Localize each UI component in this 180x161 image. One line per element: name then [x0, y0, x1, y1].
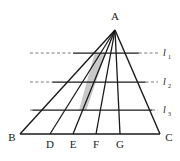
vertex-label-a: A [111, 10, 119, 22]
vertex-label-b: B [8, 131, 15, 143]
transversal-label-l3: l [163, 104, 166, 115]
transversal-label-l1-subscript: 1 [168, 54, 171, 60]
vertex-label-e: E [70, 138, 77, 150]
geometry-figure: A B C D E F G l 1 l 2 l 3 [0, 0, 180, 161]
vertex-label-d: D [46, 138, 54, 150]
transversal-label-l2: l [163, 76, 166, 87]
vertex-label-g: G [116, 138, 124, 150]
vertex-label-f: F [93, 138, 99, 150]
vertex-label-c: C [165, 131, 172, 143]
transversal-label-l1: l [163, 47, 166, 58]
figure-canvas: A B C D E F G l 1 l 2 l 3 [0, 0, 180, 161]
transversal-label-l3-subscript: 3 [168, 111, 171, 117]
transversal-label-l2-subscript: 2 [168, 83, 171, 89]
